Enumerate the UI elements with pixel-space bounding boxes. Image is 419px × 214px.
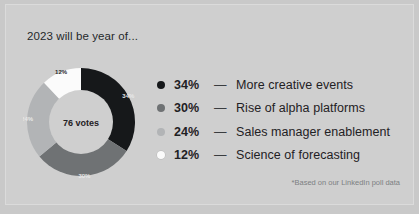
- legend-dash: —: [214, 125, 236, 139]
- donut-slice-label: 34%: [122, 93, 135, 99]
- legend-label: More creative events: [236, 78, 353, 92]
- legend-label: Rise of alpha platforms: [236, 101, 365, 115]
- legend-percent: 30%: [174, 101, 214, 115]
- page-title: 2023 will be year of...: [27, 30, 138, 42]
- legend-percent: 24%: [174, 125, 214, 139]
- screenshot-frame: 2023 will be year of... 76 votes 34%30%2…: [0, 0, 419, 214]
- poll-result-card: 2023 will be year of... 76 votes 34%30%2…: [5, 4, 414, 205]
- legend-item[interactable]: 12% — Science of forecasting: [157, 144, 409, 168]
- legend-label: Sales manager enablement: [236, 125, 390, 139]
- legend-dash: —: [214, 148, 236, 162]
- legend-item[interactable]: 34% — More creative events: [157, 73, 409, 97]
- legend-color-swatch-icon: [157, 151, 165, 159]
- legend-color-swatch-icon: [157, 81, 165, 89]
- legend-color-swatch-icon: [157, 104, 165, 112]
- donut-chart: 76 votes 34%30%24%12%: [23, 56, 143, 190]
- legend-percent: 12%: [174, 148, 214, 162]
- legend-percent: 34%: [174, 78, 214, 92]
- legend: 34% — More creative events 30% — Rise of…: [157, 73, 409, 167]
- donut-slice-label: 30%: [78, 173, 91, 179]
- legend-color-swatch-icon: [157, 128, 165, 136]
- legend-dash: —: [214, 101, 236, 115]
- donut-chart-svg: 76 votes 34%30%24%12%: [23, 56, 143, 190]
- legend-item[interactable]: 30% — Rise of alpha platforms: [157, 97, 409, 121]
- donut-slice-label: 12%: [55, 69, 68, 75]
- donut-center-label: 76 votes: [63, 118, 99, 128]
- footnote: *Based on our LinkedIn poll data: [292, 178, 400, 187]
- legend-item[interactable]: 24% — Sales manager enablement: [157, 120, 409, 144]
- donut-slice-label: 24%: [23, 116, 34, 122]
- legend-label: Science of forecasting: [236, 148, 360, 162]
- legend-dash: —: [214, 78, 236, 92]
